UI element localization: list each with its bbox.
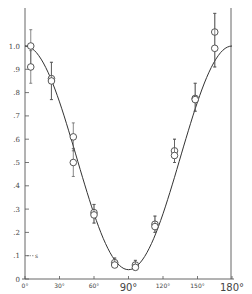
open-circle-marker [91, 212, 98, 219]
open-circle-marker [70, 134, 77, 141]
data-points [27, 13, 218, 270]
y-tick-label: .4 [13, 182, 20, 190]
y-tick-label: .5 [13, 159, 20, 167]
y-tick-label: 1.0 [9, 43, 20, 51]
open-circle-marker [70, 159, 77, 166]
y-tick-label: .2 [13, 229, 20, 237]
data-point [70, 123, 77, 151]
open-circle-marker [152, 223, 159, 230]
data-point [111, 258, 118, 268]
open-circle-marker [111, 262, 118, 269]
x-tick-label: 180° [220, 282, 244, 293]
x-tick-label: 60° [89, 282, 100, 289]
annotation-label: s [35, 252, 38, 259]
y-ticks: 0.1.2.3.4.5.6.7.8.91.0 [9, 43, 29, 284]
x-tick-label: 150° [190, 282, 204, 289]
open-circle-marker [27, 43, 34, 50]
open-circle-marker [27, 64, 34, 71]
x-tick-label: 120° [156, 282, 170, 289]
data-point [192, 83, 199, 111]
open-circle-marker [211, 45, 218, 52]
open-circle-marker [171, 152, 178, 159]
data-point [132, 260, 139, 270]
x-tick-label: 30° [54, 282, 65, 289]
y-tick-label: .7 [13, 112, 20, 120]
open-circle-marker [192, 96, 199, 103]
chart: 0.1.2.3.4.5.6.7.8.91.0 0°30°60°90°120°15… [0, 0, 252, 294]
open-circle-marker [132, 264, 139, 271]
y-tick-label: .1 [13, 252, 20, 260]
y-tick-label: .3 [13, 206, 20, 214]
y-tick-label: .8 [13, 89, 20, 97]
x-tick-label: 0° [22, 282, 29, 289]
data-point [27, 51, 34, 84]
y-tick-label: .9 [13, 66, 20, 74]
axes [22, 8, 234, 279]
data-point [211, 13, 218, 67]
x-tick-label: 90° [120, 282, 138, 293]
annotation-s-marker: s [27, 252, 38, 259]
y-tick-label: .6 [13, 136, 20, 144]
theory-curve [25, 46, 232, 270]
y-tick-label: 0 [16, 276, 20, 284]
data-point [48, 62, 55, 99]
open-circle-marker [48, 78, 55, 85]
